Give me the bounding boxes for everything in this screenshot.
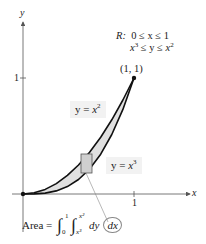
x-tick-label: 1 [132, 198, 137, 208]
point-1-1 [132, 76, 136, 80]
point-label: (1, 1) [120, 64, 143, 75]
region-line-1: R: 0 ≤ x ≤ 1 [116, 30, 174, 42]
y-tick-label: 1 [14, 73, 19, 83]
leader-line [86, 173, 108, 222]
inner-integral: ∫x²x³ [71, 216, 83, 234]
outer-integral: ∫10 [57, 216, 69, 234]
area-formula: Area = ∫10 ∫x²x³ dy dx [22, 216, 122, 234]
representative-rectangle [81, 154, 92, 173]
region-definition: R: 0 ≤ x ≤ 1 x3 ≤ y ≤ x2 [116, 30, 174, 54]
x-axis-label: x [192, 188, 196, 198]
curve-lower-label: y = x3 [106, 157, 142, 174]
y-axis-label: y [20, 8, 24, 18]
region-name: R: [116, 30, 126, 41]
region-x-bounds: 0 ≤ x ≤ 1 [131, 30, 169, 41]
shaded-region [23, 78, 134, 194]
region-line-2: x3 ≤ y ≤ x2 [116, 42, 174, 54]
area-prefix: Area = [22, 219, 55, 231]
plot-canvas [0, 0, 206, 244]
origin-point [21, 192, 25, 196]
inner-differential: dy [89, 219, 99, 231]
curve-upper-label: y = x2 [70, 101, 106, 118]
double-integral-diagram: y x 1 1 R: 0 ≤ x ≤ 1 x3 ≤ y ≤ x2 (1, 1) … [0, 0, 206, 244]
outer-differential: dx [103, 217, 121, 233]
